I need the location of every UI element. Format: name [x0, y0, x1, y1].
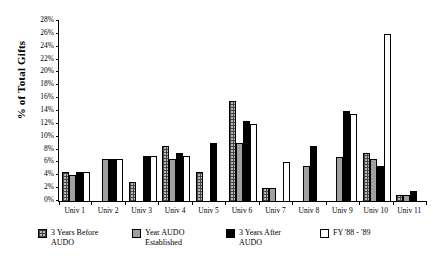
legend-item[interactable]: 3 Years After AUDO: [226, 228, 312, 248]
bar: [283, 162, 290, 201]
legend-item[interactable]: FY '88 - '89: [320, 228, 406, 238]
y-axis-tick-label: 26%: [40, 28, 54, 38]
bar: [150, 156, 157, 201]
bar: [109, 159, 116, 201]
bar-group: [92, 21, 125, 201]
bar-chart: % of Total Gifts 0%2%4%6%8%10%12%14%16%1…: [0, 0, 436, 260]
y-axis-tick-label: 24%: [40, 41, 54, 51]
bar: [143, 156, 150, 201]
bar-group: [126, 21, 159, 201]
y-axis-tick-label: 12%: [40, 118, 54, 128]
bar: [343, 111, 350, 201]
y-axis-tick-label: 6%: [44, 156, 54, 166]
bar: [396, 195, 403, 201]
bar: [129, 182, 136, 201]
y-axis-tick-label: 2%: [44, 182, 54, 192]
x-axis-label: Univ 4: [158, 206, 191, 215]
bar: [350, 114, 357, 201]
bar: [183, 156, 190, 201]
bar-group: [226, 21, 259, 201]
legend-label: Year AUDO Established: [145, 228, 184, 248]
bar: [250, 124, 257, 201]
x-axis-label: Univ 7: [259, 206, 292, 215]
bar-group: [59, 21, 92, 201]
bar: [363, 153, 370, 201]
bar: [410, 191, 417, 201]
y-axis-tick-label: 18%: [40, 79, 54, 89]
legend-swatch: [132, 229, 141, 238]
bar: [403, 195, 410, 201]
x-axis-label: Univ 5: [192, 206, 225, 215]
y-axis-tick-label: 22%: [40, 54, 54, 64]
bar: [116, 159, 123, 201]
bar: [196, 172, 203, 201]
x-axis-label: Univ 3: [125, 206, 158, 215]
bar: [169, 159, 176, 201]
bar: [83, 172, 90, 201]
legend-label: 3 Years Before AUDO: [51, 228, 98, 248]
bar: [210, 143, 217, 201]
bar-group: [360, 21, 393, 201]
bar: [176, 153, 183, 201]
bar: [236, 143, 243, 201]
x-axis-label: Univ 6: [225, 206, 258, 215]
bar: [262, 188, 269, 201]
bar: [336, 157, 343, 201]
legend-swatch: [38, 229, 47, 238]
bar: [62, 172, 69, 201]
bar: [269, 188, 276, 201]
bar: [162, 146, 169, 201]
legend-swatch: [226, 229, 235, 238]
x-axis-label: Univ 1: [58, 206, 91, 215]
bar: [370, 159, 377, 201]
bar: [303, 166, 310, 201]
bar-group: [327, 21, 360, 201]
x-axis-label: Univ 10: [359, 206, 392, 215]
chart-legend: 3 Years Before AUDOYear AUDO Established…: [38, 228, 406, 248]
bar-group: [159, 21, 192, 201]
plot-area: 0%2%4%6%8%10%12%14%16%18%20%22%24%26%28%: [58, 21, 427, 202]
bar-group: [394, 21, 427, 201]
legend-item[interactable]: 3 Years Before AUDO: [38, 228, 124, 248]
bar: [384, 34, 391, 201]
y-axis-tick-label: 0%: [44, 195, 54, 205]
x-axis-label: Univ 2: [91, 206, 124, 215]
y-axis-tick-label: 20%: [40, 66, 54, 76]
bar: [76, 172, 83, 201]
x-axis-label: Univ 9: [326, 206, 359, 215]
y-axis-tick-label: 14%: [40, 105, 54, 115]
x-axis-label: Univ 8: [292, 206, 325, 215]
legend-label: FY '88 - '89: [333, 228, 370, 238]
y-axis-tick-label: 10%: [40, 131, 54, 141]
y-axis-title: % of Total Gifts: [15, 15, 27, 145]
bar-groups: [59, 21, 427, 201]
bar: [310, 146, 317, 201]
x-axis-labels: Univ 1Univ 2Univ 3Univ 4Univ 5Univ 6Univ…: [58, 206, 426, 215]
y-axis-tick-label: 28%: [40, 15, 54, 25]
y-axis-tick-label: 8%: [44, 144, 54, 154]
bar: [377, 166, 384, 201]
bar-group: [193, 21, 226, 201]
legend-label: 3 Years After AUDO: [239, 228, 281, 248]
y-axis-tick-label: 4%: [44, 169, 54, 179]
bar-group: [293, 21, 326, 201]
bar: [102, 159, 109, 201]
legend-item[interactable]: Year AUDO Established: [132, 228, 218, 248]
bar: [229, 101, 236, 201]
bar: [69, 175, 76, 201]
y-axis-tick-label: 16%: [40, 92, 54, 102]
x-axis-label: Univ 11: [393, 206, 426, 215]
bar: [243, 121, 250, 201]
legend-swatch: [320, 229, 329, 238]
bar-group: [260, 21, 293, 201]
